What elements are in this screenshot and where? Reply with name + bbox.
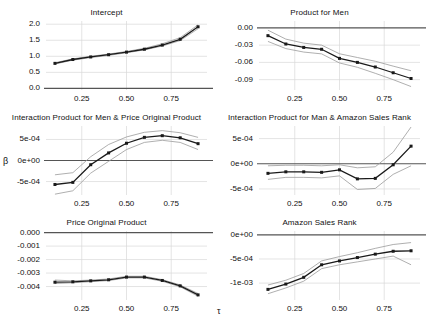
panel-product-for-men: Product for Men 0.00-0.03-0.06-0.090.250… <box>213 8 426 108</box>
panel-intercept: Intercept 0.00.51.01.52.00.250.500.75 <box>0 8 213 108</box>
data-point <box>179 136 182 139</box>
panel-interaction-man-sales-rank: Interaction Product for Man & Amazon Sal… <box>213 113 426 213</box>
y-tick-label: -0.03 <box>213 41 253 49</box>
data-point <box>320 171 323 174</box>
data-point <box>302 170 305 173</box>
x-tick-label: 0.25 <box>67 200 97 208</box>
data-point <box>89 279 92 282</box>
x-tick-label: 0.25 <box>280 95 310 103</box>
x-tick-label: 0.50 <box>325 200 355 208</box>
y-tick-label: 5e-04 <box>213 135 253 143</box>
data-point <box>392 163 395 166</box>
x-tick-label: 0.50 <box>112 305 142 313</box>
data-point <box>53 183 56 186</box>
data-point <box>410 77 413 80</box>
y-tick-label: -0.09 <box>213 76 253 84</box>
data-point <box>197 25 200 28</box>
data-point <box>107 53 110 56</box>
x-tick-label: 0.50 <box>112 200 142 208</box>
x-tick-label: 0.50 <box>325 305 355 313</box>
data-point <box>143 136 146 139</box>
y-tick-label: 0e+00 <box>213 231 253 239</box>
data-point <box>302 46 305 49</box>
data-point <box>374 253 377 256</box>
data-point <box>71 58 74 61</box>
y-tick-label: -0.001 <box>0 242 40 250</box>
data-point <box>125 51 128 54</box>
data-point <box>410 249 413 252</box>
x-tick-label: 0.75 <box>156 305 186 313</box>
data-point <box>179 38 182 41</box>
data-point <box>125 142 128 145</box>
data-point <box>71 280 74 283</box>
data-point <box>356 256 359 259</box>
panel-price-original-product: Price Original Product 0.000-0.001-0.002… <box>0 218 213 318</box>
x-tick-label: 0.75 <box>369 95 399 103</box>
data-point <box>392 71 395 74</box>
data-point <box>89 163 92 166</box>
y-tick-label: -5e-04 <box>0 178 40 186</box>
x-tick-label: 0.75 <box>156 200 186 208</box>
data-point <box>302 276 305 279</box>
data-point <box>410 145 413 148</box>
data-point <box>356 177 359 180</box>
data-point <box>338 259 341 262</box>
data-point <box>179 284 182 287</box>
x-tick-label: 0.50 <box>112 95 142 103</box>
data-point <box>107 278 110 281</box>
data-point <box>338 57 341 60</box>
x-tick-label: 0.25 <box>280 200 310 208</box>
quantile-regression-figure: Intercept 0.00.51.01.52.00.250.500.75 Pr… <box>0 0 426 328</box>
x-tick-label: 0.75 <box>156 95 186 103</box>
x-tick-label: 0.25 <box>67 95 97 103</box>
y-tick-label: 1.0 <box>0 52 40 60</box>
data-point <box>284 43 287 46</box>
data-point <box>161 44 164 47</box>
y-tick-label: 0.000 <box>0 229 40 237</box>
x-tick-label: 0.25 <box>280 305 310 313</box>
y-tick-label: 0.0 <box>0 84 40 92</box>
y-tick-label: 1.5 <box>0 36 40 44</box>
data-point <box>266 288 269 291</box>
data-point <box>53 62 56 65</box>
data-point <box>197 142 200 145</box>
y-tick-label: -5e-04 <box>213 185 253 193</box>
data-point <box>284 283 287 286</box>
y-tick-label: -0.002 <box>0 256 40 264</box>
data-point <box>320 263 323 266</box>
y-tick-label: 5e-04 <box>0 135 40 143</box>
y-tick-label: -1e-03 <box>213 279 253 287</box>
data-point <box>143 276 146 279</box>
x-tick-label: 0.25 <box>67 305 97 313</box>
data-point <box>374 66 377 69</box>
data-point <box>374 177 377 180</box>
data-point <box>53 281 56 284</box>
x-tick-label: 0.75 <box>369 200 399 208</box>
y-tick-label: 0e+00 <box>213 160 253 168</box>
y-tick-label: -0.004 <box>0 283 40 291</box>
data-point <box>266 34 269 37</box>
data-point <box>161 134 164 137</box>
data-point <box>107 151 110 154</box>
y-tick-label: 0.5 <box>0 68 40 76</box>
y-tick-label: -0.003 <box>0 269 40 277</box>
data-point <box>284 170 287 173</box>
data-point <box>89 55 92 58</box>
data-point <box>161 279 164 282</box>
data-point <box>392 250 395 253</box>
x-axis-label: τ <box>217 306 221 316</box>
data-point <box>143 48 146 51</box>
data-point <box>266 172 269 175</box>
x-tick-label: 0.75 <box>369 305 399 313</box>
data-point <box>71 181 74 184</box>
y-tick-label: -5e-04 <box>213 255 253 263</box>
data-point <box>356 61 359 64</box>
y-axis-label: β <box>3 156 8 166</box>
data-point <box>320 48 323 51</box>
y-tick-label: 0.00 <box>213 24 253 32</box>
data-point <box>197 293 200 296</box>
data-point <box>338 168 341 171</box>
y-tick-label: -0.06 <box>213 58 253 66</box>
x-tick-label: 0.50 <box>325 95 355 103</box>
panel-amazon-sales-rank: Amazon Sales Rank 0e+00-5e-04-1e-030.250… <box>213 218 426 318</box>
